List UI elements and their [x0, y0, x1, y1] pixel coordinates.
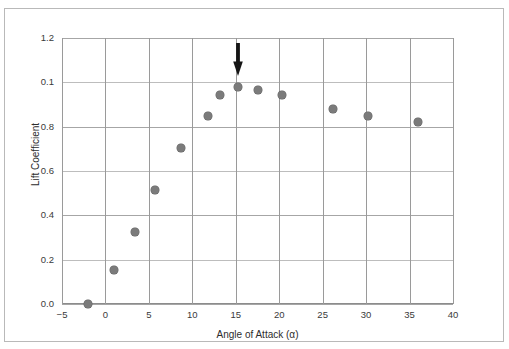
x-tick-label: 25 [303, 309, 343, 320]
x-tick-label: 20 [259, 309, 299, 320]
gridline-horizontal [62, 304, 453, 305]
gridline-horizontal [62, 127, 453, 128]
data-point [151, 186, 159, 194]
data-point [414, 118, 422, 126]
data-point [234, 83, 242, 91]
data-point [84, 300, 92, 308]
x-axis-tick-labels: −50510152025303540 [62, 309, 453, 323]
data-point [364, 112, 372, 120]
data-point [204, 112, 212, 120]
gridline-horizontal [62, 82, 453, 83]
y-axis-title: Lift Coefficient [30, 75, 41, 235]
gridline-vertical [62, 38, 63, 304]
gridline-horizontal [62, 38, 453, 39]
figure-frame: 0.00.20.40.60.80.11.2 −50510152025303540… [4, 8, 504, 342]
gridline-vertical [366, 38, 367, 304]
y-tick-label: 0.2 [8, 255, 54, 265]
gridline-horizontal [62, 215, 453, 216]
gridline-vertical [236, 38, 237, 304]
x-tick-label: 0 [85, 309, 125, 320]
x-tick-label: 40 [433, 309, 473, 320]
gridline-vertical [149, 38, 150, 304]
peak-down-arrow-icon [233, 43, 243, 76]
x-tick-label: −5 [42, 309, 82, 320]
y-tick-label: 1.2 [8, 33, 54, 43]
plot-area [62, 38, 453, 304]
y-tick-label: 0.0 [8, 299, 54, 309]
x-tick-label: 10 [172, 309, 212, 320]
gridline-vertical [279, 38, 280, 304]
data-point [254, 86, 262, 94]
gridline-vertical [192, 38, 193, 304]
x-tick-label: 15 [216, 309, 256, 320]
gridline-horizontal [62, 260, 453, 261]
gridline-vertical [453, 38, 454, 304]
data-point [329, 105, 337, 113]
data-point [110, 266, 118, 274]
gridline-vertical [323, 38, 324, 304]
data-point [177, 144, 185, 152]
x-axis-title: Angle of Attack (α) [62, 329, 453, 340]
x-tick-label: 35 [390, 309, 430, 320]
gridline-horizontal [62, 171, 453, 172]
x-tick-label: 5 [129, 309, 169, 320]
data-point [131, 228, 139, 236]
gridline-vertical [105, 38, 106, 304]
gridline-vertical [410, 38, 411, 304]
data-point [216, 91, 224, 99]
data-point [278, 91, 286, 99]
x-tick-label: 30 [346, 309, 386, 320]
